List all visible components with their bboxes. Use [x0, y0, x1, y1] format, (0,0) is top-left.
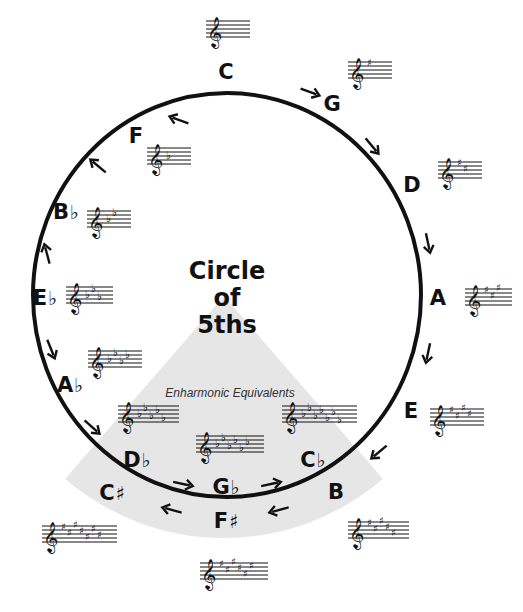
flat-icon: ♭	[137, 407, 142, 420]
key-label-g: G	[323, 94, 340, 115]
key-letter: B	[53, 200, 69, 224]
key-label-a: A	[430, 288, 446, 309]
flat-icon: ♭	[215, 437, 220, 450]
flat-icon: ♭	[119, 354, 124, 367]
flat-icon: ♭	[166, 149, 171, 162]
sharp-icon: ♯	[116, 482, 125, 504]
key-label-fs: F♯	[214, 511, 239, 532]
sharp-icon: ♯	[61, 521, 66, 532]
arrow-f-to-bb-icon	[87, 156, 109, 177]
key-label-cb: C♭	[300, 450, 325, 471]
flat-icon: ♭	[74, 374, 83, 396]
title-line-3: 5ths	[189, 312, 265, 339]
key-letter: F	[129, 124, 143, 148]
arrow-c-to-f-icon	[168, 112, 190, 128]
sharp-icon: ♯	[85, 531, 90, 542]
key-letter: C	[218, 60, 233, 84]
key-label-eb: E♭	[33, 288, 57, 309]
key-letter: D	[123, 448, 140, 472]
sharp-icon: ♯	[229, 510, 238, 532]
flat-icon: ♭	[227, 439, 232, 452]
sharp-icon: ♯	[219, 558, 224, 569]
key-label-e: E	[404, 401, 418, 422]
flat-icon: ♭	[106, 212, 111, 225]
flat-icon: ♭	[221, 431, 226, 444]
key-signature-fs: 𝄞♯♯♯♯♯♯	[200, 556, 268, 591]
flat-icon: ♭	[301, 407, 306, 420]
key-label-f: F	[129, 126, 143, 147]
key-signature-eb: 𝄞♭♭♭	[66, 282, 113, 315]
flat-icon: ♭	[313, 409, 318, 422]
sharp-icon: ♯	[367, 517, 372, 528]
sharp-icon: ♯	[496, 282, 501, 293]
diagram-title: Circle of 5ths	[189, 258, 265, 339]
key-label-b: B	[328, 482, 344, 503]
key-letter: A	[430, 286, 446, 310]
key-label-ab: A♭	[57, 375, 83, 396]
flat-icon: ♭	[149, 409, 154, 422]
sharp-icon: ♯	[367, 57, 372, 68]
key-signature-f: 𝄞♭	[147, 144, 191, 176]
key-label-c: C	[218, 62, 233, 83]
key-signature-g: 𝄞♯	[348, 57, 392, 90]
flat-icon: ♭	[231, 476, 240, 498]
sharp-icon: ♯	[73, 519, 78, 530]
sharp-icon: ♯	[225, 564, 230, 575]
title-line-2: of	[189, 285, 265, 312]
arrow-bb-to-eb-icon	[40, 243, 55, 265]
sharp-icon: ♯	[463, 163, 468, 174]
arrow-a-to-e-icon	[421, 342, 435, 364]
key-signature-d: 𝄞♯♯	[438, 157, 482, 190]
flat-icon: ♭	[317, 449, 326, 471]
key-label-bb: B♭	[53, 202, 79, 223]
flat-icon: ♭	[107, 352, 112, 365]
arrow-d-to-a-icon	[421, 232, 435, 254]
sharp-icon: ♯	[449, 404, 454, 415]
key-letter: F	[214, 509, 228, 533]
key-label-db: D♭	[123, 450, 150, 471]
sharp-icon: ♯	[231, 556, 236, 567]
key-signature-e: 𝄞♯♯♯♯	[430, 402, 484, 437]
flat-icon: ♭	[233, 433, 238, 446]
sharp-icon: ♯	[385, 521, 390, 532]
flat-icon: ♭	[331, 405, 336, 418]
key-signature-cs: 𝄞♯♯♯♯♯♯♯	[42, 519, 117, 554]
key-signature-b: 𝄞♯♯♯♯♯	[348, 515, 409, 550]
flat-icon: ♭	[48, 287, 57, 309]
key-signature-bb: 𝄞♭♭	[87, 206, 131, 239]
sharp-icon: ♯	[461, 402, 466, 413]
arrow-eb-to-ab-icon	[43, 338, 60, 360]
sharp-icon: ♯	[97, 529, 102, 540]
sharp-icon: ♯	[67, 527, 72, 538]
key-letter: A	[57, 373, 73, 397]
key-letter: E	[404, 399, 418, 423]
sharp-icon: ♯	[373, 523, 378, 534]
sharp-icon: ♯	[237, 562, 242, 573]
flat-icon: ♭	[125, 348, 130, 361]
key-signature-ab: 𝄞♭♭♭♭	[88, 346, 142, 379]
key-letter: C	[300, 448, 315, 472]
key-signature-c: 𝄞	[206, 17, 250, 49]
key-signature-a: 𝄞♯♯♯	[465, 282, 512, 317]
flat-icon: ♭	[155, 403, 160, 416]
sharp-icon: ♯	[91, 523, 96, 534]
arrow-c-to-g-icon	[299, 84, 321, 100]
sharp-icon: ♯	[457, 157, 462, 168]
flat-icon: ♭	[337, 413, 342, 426]
key-letter: D	[403, 173, 420, 197]
key-letter: C	[99, 481, 114, 505]
flat-icon: ♭	[113, 346, 118, 359]
sharp-icon: ♯	[467, 408, 472, 419]
sharp-icon: ♯	[379, 515, 384, 526]
flat-icon: ♭	[319, 403, 324, 416]
flat-icon: ♭	[112, 206, 117, 219]
sharp-icon: ♯	[249, 560, 254, 571]
enharmonic-equivalents-label: Enharmonic Equivalents	[165, 386, 294, 400]
flat-icon: ♭	[85, 288, 90, 301]
flat-icon: ♭	[325, 411, 330, 424]
flat-icon: ♭	[245, 435, 250, 448]
flat-icon: ♭	[307, 401, 312, 414]
flat-icon: ♭	[143, 401, 148, 414]
key-letter: B	[328, 480, 344, 504]
title-line-1: Circle	[189, 258, 265, 285]
